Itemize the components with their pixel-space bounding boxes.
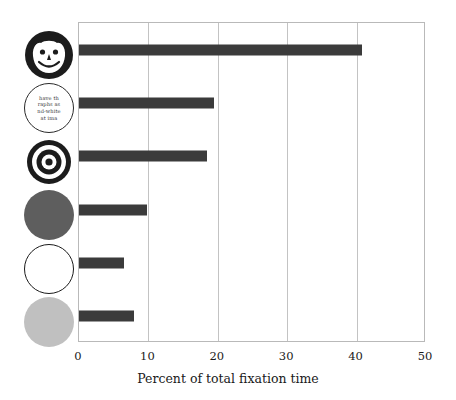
category-icon-bullseye (24, 137, 74, 187)
category-icon-white-circle (24, 244, 74, 294)
category-icon-smiley-face (24, 30, 74, 80)
x-tick-30: 30 (271, 349, 301, 363)
bar-row (79, 183, 424, 236)
bar-row (79, 23, 424, 76)
x-axis-title: Percent of total fixation time (0, 371, 456, 386)
text-circle-line-4: at ima (41, 115, 58, 122)
light-gray-circle-icon (24, 297, 74, 347)
smiley-face-icon (24, 30, 74, 80)
bar-dark-gray-circle (79, 204, 147, 215)
bar-light-gray-circle (79, 311, 134, 322)
bar-row (79, 76, 424, 129)
bar-row (79, 236, 424, 289)
category-icon-light-gray-circle (24, 297, 74, 347)
bar-smiley-face (79, 44, 362, 55)
x-tick-10: 10 (132, 349, 162, 363)
bar-text-circle (79, 97, 214, 108)
bar-white-circle (79, 257, 124, 268)
bar-bullseye (79, 151, 207, 162)
bullseye-icon (24, 137, 74, 187)
text-circle-line-1: have th (39, 95, 59, 102)
x-tick-0: 0 (63, 349, 93, 363)
white-circle-icon (24, 244, 74, 294)
category-icon-text-circle: have th raphs as nd-white at ima (24, 83, 74, 133)
plot-area (78, 22, 425, 342)
x-tick-20: 20 (202, 349, 232, 363)
text-circle-line-2: raphs as (38, 101, 61, 108)
bar-row (79, 130, 424, 183)
x-tick-50: 50 (410, 349, 440, 363)
bar-row (79, 290, 424, 343)
category-icon-dark-gray-circle (24, 190, 74, 240)
text-circle-icon: have th raphs as nd-white at ima (24, 83, 74, 133)
text-circle-line-3: nd-white (37, 108, 60, 115)
x-tick-40: 40 (341, 349, 371, 363)
dark-gray-circle-icon (24, 190, 74, 240)
chart-page: have th raphs as nd-white at ima (0, 0, 456, 400)
